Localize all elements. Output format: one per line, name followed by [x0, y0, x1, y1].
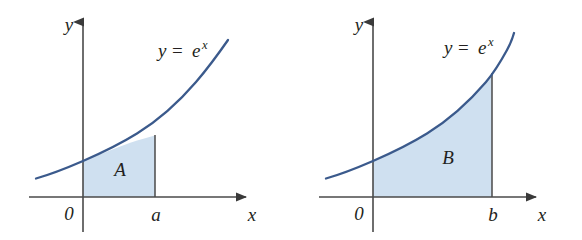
curve-equation-right: y = e x: [442, 35, 494, 58]
tick-label-a: a: [151, 204, 161, 225]
curve-equation-lhs-right: y: [442, 37, 453, 58]
tick-label-origin-right: 0: [354, 203, 364, 224]
x-axis-label-right: x: [537, 204, 547, 225]
y-axis-label-right: y: [353, 14, 364, 35]
figure-container: y x 0 a A y = e x: [0, 0, 582, 240]
curve-equation-base-left: e: [192, 40, 200, 61]
tick-label-origin-left: 0: [64, 203, 74, 224]
curve-equation-operator-right: =: [458, 37, 469, 58]
curve-equation-operator-left: =: [172, 40, 183, 61]
region-label-B: B: [442, 147, 454, 168]
curve-equation-exponent-right: x: [487, 35, 494, 49]
exponential-area-figure: y x 0 a A y = e x: [0, 0, 582, 240]
curve-equation-exponent-left: x: [201, 38, 208, 52]
curve-equation-left: y = e x: [156, 38, 208, 61]
curve-equation-lhs-left: y: [156, 40, 167, 61]
tick-label-b: b: [488, 204, 498, 225]
region-label-A: A: [112, 159, 126, 180]
x-axis-label-left: x: [247, 204, 257, 225]
curve-equation-base-right: e: [478, 37, 486, 58]
y-axis-label-left: y: [63, 14, 74, 35]
